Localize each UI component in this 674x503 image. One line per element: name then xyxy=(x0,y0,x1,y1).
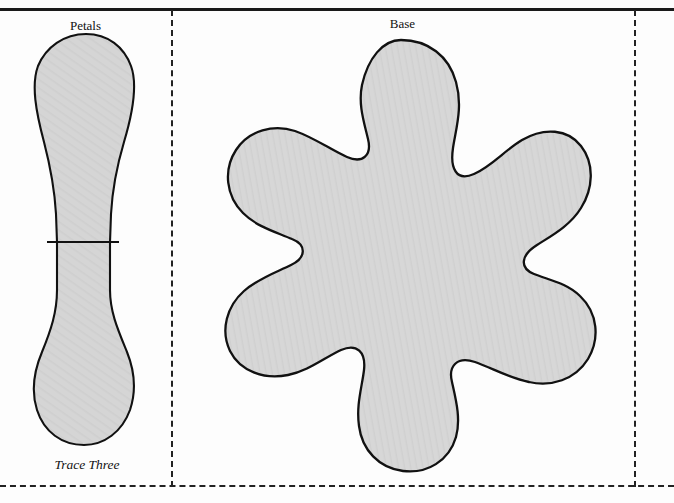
trace-three-note: Trace Three xyxy=(0,458,174,472)
pattern-page: Petals Base Trace Three xyxy=(0,0,674,503)
pattern-artwork xyxy=(0,0,674,503)
base-label: Base xyxy=(171,17,634,30)
petals-label: Petals xyxy=(0,19,171,32)
petals-shape xyxy=(34,34,134,445)
base-shape xyxy=(225,40,595,471)
